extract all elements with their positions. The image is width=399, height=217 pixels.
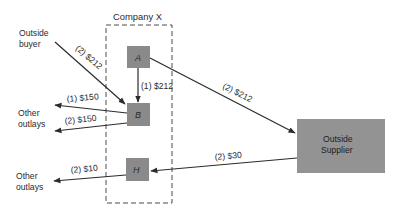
arrow-h-to-outlays — [54, 175, 126, 181]
supplier-label-line1: Outside — [323, 134, 353, 144]
company-x-flow-diagram: Company X A B H Outside Supplier Outside… — [0, 0, 399, 217]
other-outlays-2-label-line2: outlays — [16, 182, 43, 192]
company-title: Company X — [113, 11, 163, 22]
other-outlays-1-label-line2: outlays — [18, 119, 45, 129]
node-b-label: B — [135, 110, 141, 120]
flow-label-buyer-to-b: (2) $212 — [74, 43, 105, 72]
flow-label-supplier-to-h: (2) $30 — [214, 150, 242, 162]
flow-label-a-to-b: (1) $212 — [141, 81, 173, 91]
node-h-label: H — [133, 165, 140, 175]
flow-label-h-to-outlays: (2) $10 — [70, 163, 98, 175]
flow-label-a-to-supplier: (2) $212 — [221, 81, 254, 105]
outside-buyer-label-line2: buyer — [19, 39, 41, 49]
arrow-b-to-outlays-1 — [55, 105, 127, 113]
node-a-label: A — [134, 53, 141, 63]
node-h: H — [126, 158, 149, 181]
other-outlays-1-label-line1: Other — [18, 108, 40, 118]
node-a: A — [127, 46, 150, 68]
supplier-label-line2: Supplier — [321, 145, 353, 155]
node-b: B — [127, 103, 150, 126]
node-outside-supplier: Outside Supplier — [297, 119, 385, 173]
flow-label-b-to-outlays-1: (1) $150 — [66, 91, 99, 104]
outside-buyer-label-line1: Outside — [19, 28, 49, 38]
other-outlays-2-label-line1: Other — [16, 171, 38, 181]
flow-label-b-to-outlays-2: (2) $150 — [64, 113, 97, 126]
